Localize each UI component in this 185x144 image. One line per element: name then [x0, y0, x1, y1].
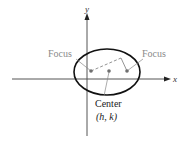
focus-left-leader	[76, 59, 91, 71]
focal-solid-line	[121, 58, 127, 71]
y-axis: y	[84, 4, 90, 136]
x-axis: x	[12, 74, 177, 84]
focus-right-label: Focus	[142, 48, 166, 59]
x-axis-label: x	[172, 74, 177, 84]
center-label: Center	[95, 98, 122, 109]
ellipse-diagram: x y Focus Focus Center (h, k)	[0, 0, 185, 144]
ellipse-curve	[74, 49, 140, 95]
focus-left-point	[89, 69, 93, 73]
focus-left-label: Focus	[48, 48, 72, 59]
focal-dashed-line	[91, 58, 121, 71]
x-axis-arrow-icon	[164, 77, 171, 82]
center-coords-label: (h, k)	[96, 111, 118, 123]
y-axis-arrow-icon	[85, 13, 90, 20]
y-axis-label: y	[84, 4, 89, 14]
center-leader	[104, 72, 109, 96]
focus-right-point	[125, 69, 129, 73]
center-point	[107, 69, 111, 73]
